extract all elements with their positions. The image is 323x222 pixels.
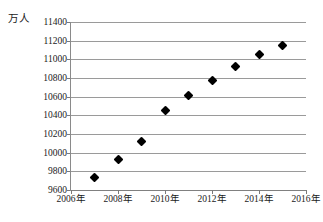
x-axis-tick-mark (165, 190, 166, 194)
x-axis-tick-label: 2010年 (151, 194, 180, 205)
x-axis-tick-mark (71, 190, 72, 194)
x-axis-tick-mark (259, 190, 260, 194)
x-axis-tick-label: 2008年 (104, 194, 133, 205)
scatter-chart-figure: 万人 9600980010000102001040010600108001100… (0, 0, 323, 222)
x-axis-tick-label: 2016年 (292, 194, 321, 205)
x-axis-tick-label: 2012年 (198, 194, 227, 205)
x-axis-tick-mark (306, 190, 307, 194)
x-axis-tick-label: 2006年 (57, 194, 86, 205)
x-axis-tick-mark (212, 190, 213, 194)
x-axis-tick-mark (118, 190, 119, 194)
x-axis-tick-label-group: 2006年2008年2010年2012年2014年2016年 (0, 0, 323, 222)
x-axis-tick-label: 2014年 (245, 194, 274, 205)
